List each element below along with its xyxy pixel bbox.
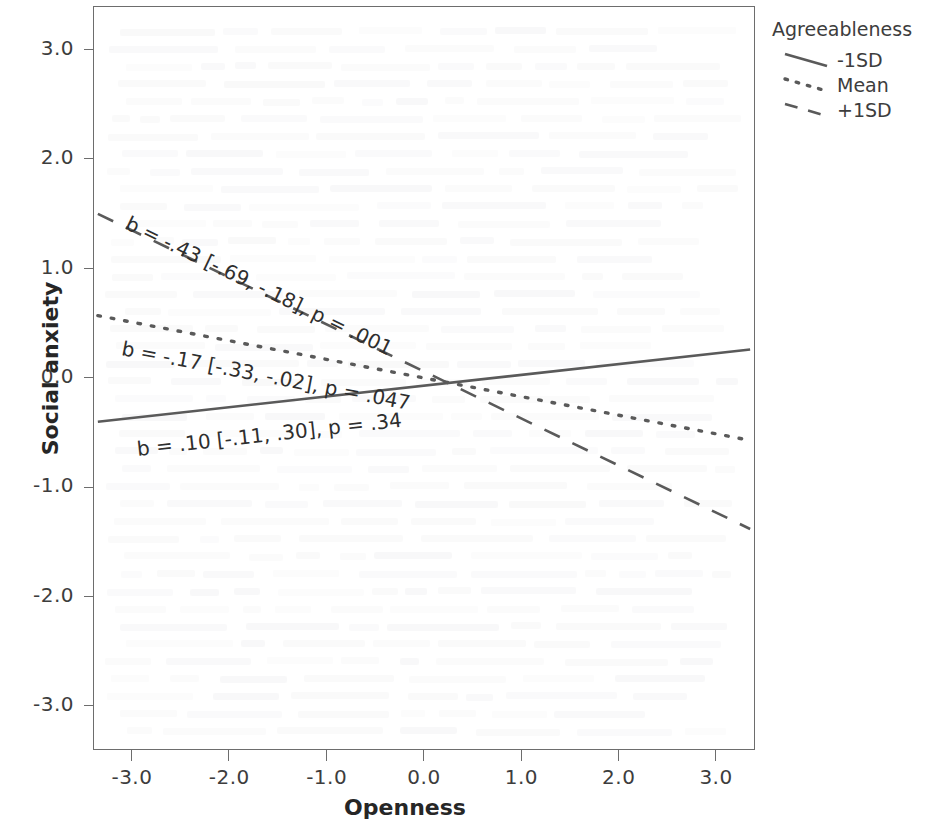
x-tick-label: -3.0	[111, 765, 152, 789]
plot-area	[93, 6, 755, 750]
x-tick-mark	[423, 750, 424, 761]
legend-title: Agreeableness	[772, 18, 922, 40]
regression-lines	[93, 6, 755, 750]
legend-entries: -1SDMean+1SD	[772, 47, 922, 122]
x-tick-mark	[715, 750, 716, 761]
legend-line-swatch	[782, 49, 830, 71]
legend-item-plus1sd[interactable]: +1SD	[772, 97, 922, 122]
x-tick-mark	[228, 750, 229, 761]
legend-item-label: -1SD	[837, 49, 883, 71]
y-tick-label: 2.0	[41, 145, 74, 169]
interaction-plot-figure: 3.02.01.00.0-1.0-2.0-3.0 -3.0-2.0-1.00.0…	[0, 0, 926, 828]
legend-line-swatch	[782, 74, 830, 96]
legend-line-swatch	[782, 99, 830, 121]
x-tick-label: 1.0	[505, 765, 538, 789]
legend: Agreeableness -1SDMean+1SD	[772, 18, 922, 122]
y-tick-label: 3.0	[41, 36, 74, 60]
y-axis-title: Social anxiety	[38, 169, 63, 569]
x-tick-label: 0.0	[407, 765, 440, 789]
x-tick-label: -1.0	[306, 765, 347, 789]
x-tick-label: 2.0	[602, 765, 635, 789]
x-tick-mark	[618, 750, 619, 761]
x-tick-mark	[521, 750, 522, 761]
y-tick-label: -2.0	[33, 583, 74, 607]
x-tick-mark	[326, 750, 327, 761]
regression-line-mean	[98, 316, 750, 441]
x-tick-label: -2.0	[209, 765, 250, 789]
y-tick-label: -3.0	[33, 692, 74, 716]
legend-item-label: +1SD	[837, 99, 892, 121]
x-tick-label: 3.0	[699, 765, 732, 789]
x-axis-title: Openness	[0, 795, 810, 820]
legend-item-label: Mean	[837, 74, 889, 96]
legend-item-minus1sd[interactable]: -1SD	[772, 47, 922, 72]
x-tick-mark	[131, 750, 132, 761]
legend-item-mean[interactable]: Mean	[772, 72, 922, 97]
